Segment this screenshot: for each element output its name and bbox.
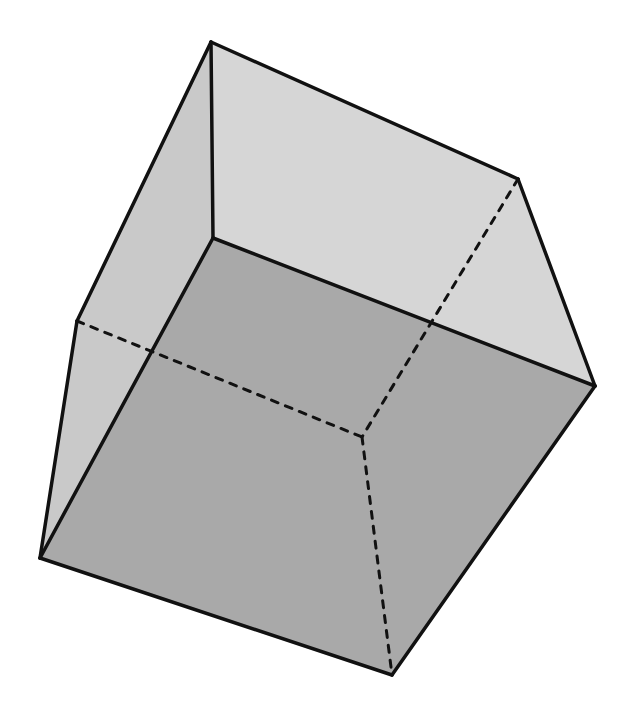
visible-edge [211, 42, 213, 238]
cube-faces [40, 42, 595, 675]
cube-svg [0, 0, 642, 714]
cube-diagram [0, 0, 642, 714]
